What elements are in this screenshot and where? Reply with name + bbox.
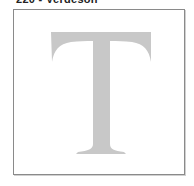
font-caption: 220 - Verdeson — [16, 0, 98, 5]
letter-t-glyph — [14, 10, 184, 174]
glyph-preview — [14, 10, 184, 174]
glyph-preview-frame[interactable] — [13, 9, 185, 175]
